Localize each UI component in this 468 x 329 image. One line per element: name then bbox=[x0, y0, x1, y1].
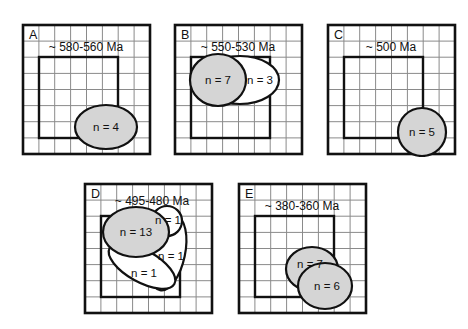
panel-b-age-label: ~ 550-530 Ma bbox=[201, 40, 276, 54]
panel-a-age-label: ~ 580-560 Ma bbox=[49, 40, 124, 54]
panel-c-label: C bbox=[334, 28, 343, 42]
panel-e-shape-label-n6: n = 6 bbox=[314, 280, 340, 292]
panel-d-shape-label-n1-lower: n = 1 bbox=[131, 267, 157, 279]
panel-c: C ~ 500 Ma n = 5 bbox=[325, 22, 458, 157]
panel-d-label: D bbox=[91, 187, 100, 201]
panel-b-shape-label-n3: n = 3 bbox=[247, 74, 273, 86]
panel-e-canvas: E ~ 380-360 Ma n = 7 n = 6 bbox=[236, 181, 369, 316]
panel-e-age-label: ~ 380-360 Ma bbox=[265, 199, 340, 213]
panel-d-shape-label-n13: n = 13 bbox=[120, 226, 152, 238]
panel-e: E ~ 380-360 Ma n = 7 n = 6 bbox=[236, 181, 369, 316]
panel-b: B ~ 550-530 Ma n = 7 n = 3 bbox=[172, 22, 305, 157]
panel-e-label: E bbox=[245, 187, 253, 201]
panel-d-canvas: D ~ 495-480 Ma n = 13 n = 1 n = 1 n = 1 bbox=[82, 181, 215, 316]
panel-b-canvas: B ~ 550-530 Ma n = 7 n = 3 bbox=[172, 22, 305, 157]
panel-a: A ~ 580-560 Ma n = 4 bbox=[20, 22, 153, 157]
panel-a-label: A bbox=[29, 28, 38, 42]
panel-d: D ~ 495-480 Ma n = 13 n = 1 n = 1 n = 1 bbox=[82, 181, 215, 316]
panel-d-shape-label-n1-right: n = 1 bbox=[158, 250, 184, 262]
panel-a-shape-label-n4: n = 4 bbox=[93, 121, 120, 133]
panel-b-shape-label-n7: n = 7 bbox=[205, 74, 231, 86]
panel-a-canvas: A ~ 580-560 Ma n = 4 bbox=[20, 22, 153, 157]
panel-c-canvas: C ~ 500 Ma n = 5 bbox=[325, 22, 458, 157]
panel-c-shape-label-n5: n = 5 bbox=[409, 126, 435, 138]
panel-b-label: B bbox=[181, 28, 189, 42]
panel-d-shape-label-n1-top: n = 1 bbox=[155, 214, 181, 226]
panel-d-age-label: ~ 495-480 Ma bbox=[115, 194, 190, 208]
panel-c-age-label: ~ 500 Ma bbox=[366, 40, 417, 54]
figure-root: A ~ 580-560 Ma n = 4 bbox=[0, 0, 468, 329]
panel-e-shape-label-n7: n = 7 bbox=[297, 258, 323, 270]
